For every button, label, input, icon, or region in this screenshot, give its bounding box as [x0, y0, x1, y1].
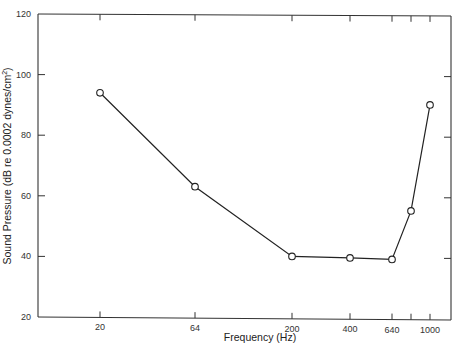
data-point-marker — [192, 183, 199, 190]
y-axis-title: Sound Pressure (dB re 0.0002 dynes/cm2) — [1, 67, 13, 264]
y-tick-label: 80 — [21, 130, 31, 140]
data-series — [97, 89, 434, 262]
data-point-marker — [427, 102, 434, 109]
plot-frame — [38, 14, 451, 320]
y-tick-label: 20 — [21, 312, 31, 322]
x-axis-ticks: 20642004006401000 — [95, 14, 440, 335]
x-tick-label: 400 — [342, 324, 357, 334]
y-tick-label: 100 — [16, 70, 31, 80]
x-tick-label: 640 — [384, 325, 399, 335]
data-point-marker — [347, 255, 354, 262]
y-tick-label: 40 — [21, 251, 31, 261]
x-axis-title: Frequency (Hz) — [224, 331, 296, 343]
data-point-marker — [97, 89, 104, 96]
chart: 20406080100120 20642004006401000 Frequen… — [0, 0, 454, 348]
y-tick-label: 60 — [21, 191, 31, 201]
x-tick-label: 20 — [95, 322, 105, 332]
data-point-marker — [389, 256, 396, 263]
y-tick-label: 120 — [16, 9, 31, 19]
x-tick-label: 64 — [190, 323, 200, 333]
series-line — [100, 93, 430, 260]
y-axis-ticks: 20406080100120 — [16, 9, 451, 322]
data-point-marker — [289, 253, 296, 260]
data-point-marker — [408, 208, 415, 215]
x-tick-label: 1000 — [420, 325, 440, 335]
